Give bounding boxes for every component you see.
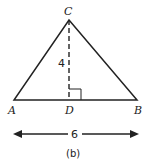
figure-caption: (b) bbox=[66, 148, 80, 159]
base-label: 6 bbox=[71, 128, 78, 141]
right-angle-mark bbox=[69, 89, 81, 100]
vertex-label-b: B bbox=[133, 104, 142, 117]
height-label: 4 bbox=[58, 57, 65, 70]
triangle-diagram: C A D B 4 6 (b) bbox=[0, 0, 151, 161]
arrowhead-right-icon bbox=[130, 130, 139, 138]
triangle-abc bbox=[14, 20, 137, 100]
vertex-label-a: A bbox=[7, 104, 16, 117]
vertex-label-c: C bbox=[64, 5, 73, 18]
arrowhead-left-icon bbox=[13, 130, 22, 138]
point-label-d: D bbox=[64, 104, 74, 117]
